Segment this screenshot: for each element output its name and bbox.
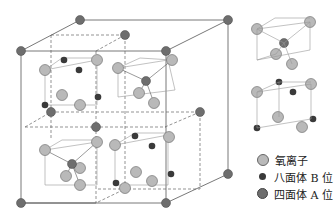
legend-label: 四面体 A 位 <box>274 186 333 202</box>
oxygen-ion-icon <box>257 154 269 166</box>
legend: 氧离子 八面体 B 位 四面体 A 位 <box>257 151 333 202</box>
legend-item-tetrahedral: 四面体 A 位 <box>257 185 333 202</box>
octahedral-site-icon <box>259 173 266 180</box>
legend-label: 八面体 B 位 <box>274 169 333 185</box>
legend-item-octahedral: 八面体 B 位 <box>257 168 333 185</box>
legend-label: 氧离子 <box>275 152 308 168</box>
tetrahedral-site-icon <box>257 188 268 199</box>
legend-item-oxygen: 氧离子 <box>257 151 333 168</box>
